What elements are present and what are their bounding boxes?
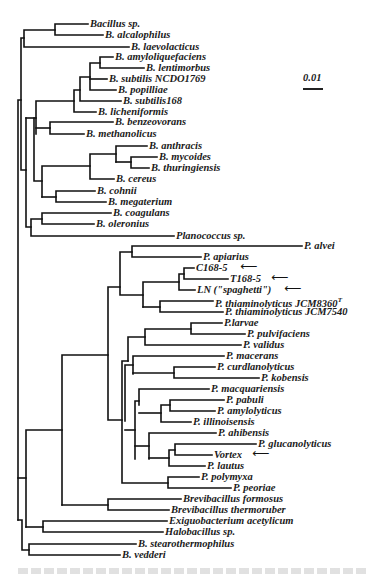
branch <box>26 118 31 227</box>
left-arrow-icon: ⟵ <box>240 261 257 272</box>
leaf-label: B. anthracis <box>149 140 202 151</box>
leaf-label: P. validus <box>243 339 284 350</box>
branch <box>18 520 29 550</box>
branch <box>145 329 241 345</box>
left-arrow-icon: ⟵ <box>252 448 269 459</box>
leaf-label: T168-5 <box>230 273 261 284</box>
leaf-label: Exiguobacterium acetylicum <box>169 515 294 526</box>
branch <box>120 252 143 295</box>
leaf-label: P. illinoisensis <box>193 416 255 427</box>
leaf-label: B. stearothermophilus <box>138 538 234 549</box>
leaf-label: P. macerans <box>226 350 278 361</box>
leaf-label: Bacillus sp. <box>90 18 140 29</box>
leaf-label: LN ("spaghetti") <box>197 284 271 295</box>
leaf-label: P. thiaminolyticus JCM7540 <box>225 306 348 317</box>
leaf-label: B. coagulans <box>113 207 170 218</box>
leaf-label: B. vedderi <box>122 549 166 560</box>
leaf-label: P. lautus <box>207 460 244 471</box>
leaf-label: B. megaterium <box>108 196 172 207</box>
scale-bar <box>303 88 323 90</box>
leaf-label: B. cereus <box>116 173 156 184</box>
scale-bar-label: 0.01 <box>303 72 321 83</box>
branch <box>161 405 191 422</box>
phylogenetic-tree-branches <box>0 0 381 577</box>
leaf-label: P. macquariensis <box>211 383 284 394</box>
leaf-label: Planococcus sp. <box>176 230 245 241</box>
leaf-label: P. curdlanolyticus <box>217 361 294 372</box>
branch <box>128 337 145 361</box>
branch <box>42 166 90 197</box>
leaf-label: P.larvae <box>224 317 259 328</box>
leaf-label: B. methanolicus <box>86 128 157 139</box>
leaf-label: P. alvei <box>304 240 335 251</box>
leaf-label: Vortex <box>214 449 242 460</box>
branch <box>90 154 116 179</box>
leaf-label: B. amyloliquefaciens <box>115 51 206 62</box>
leaf-label: P. kobensis <box>261 372 309 383</box>
branch <box>133 356 224 374</box>
branch <box>62 355 108 505</box>
leaf-label: Halobacillus sp. <box>165 526 235 537</box>
branch <box>26 430 62 527</box>
leaf-label: B. benzeovorans <box>115 116 186 127</box>
leaf-label: P. amylolyticus <box>217 405 282 416</box>
leaf-label: P. peoriae <box>233 482 275 493</box>
leaf-label: P. ahibensis <box>218 427 269 438</box>
leaf-label: B. subtilis168 <box>123 95 182 106</box>
leaf-label: Brevibacillus formosus <box>183 493 283 504</box>
leaf-label: B. oleronius <box>96 218 149 229</box>
leaf-label: Brevibacillus thermoruber <box>171 504 286 515</box>
branch <box>170 400 224 411</box>
leaf-label: B. cohnii <box>97 185 137 196</box>
leaf-label: P. pulvifaciens <box>247 328 310 339</box>
branch <box>108 287 122 420</box>
caption-cutoff <box>18 568 368 574</box>
leaf-label: B. mycoides <box>159 151 211 162</box>
left-arrow-icon: ⟵ <box>284 283 301 294</box>
leaf-label: P. pabuli <box>226 394 264 405</box>
leaf-label: C168-5 <box>196 262 228 273</box>
branch <box>43 521 167 532</box>
leaf-label: B. subtilis NCDO1769 <box>109 73 206 84</box>
branch <box>125 365 133 421</box>
branch <box>179 274 195 290</box>
leaf-label: B. alcalophilus <box>105 29 170 40</box>
leaf-label: B. thuringiensis <box>151 162 220 173</box>
leaf-label: B. lentimorbus <box>146 62 210 73</box>
branch <box>29 544 136 555</box>
branch <box>139 389 209 405</box>
branch <box>160 301 223 312</box>
branch <box>143 282 179 307</box>
leaf-label: P. polymyxa <box>201 471 253 482</box>
branch <box>36 101 74 134</box>
leaf-label: B. popilliae <box>118 84 168 95</box>
